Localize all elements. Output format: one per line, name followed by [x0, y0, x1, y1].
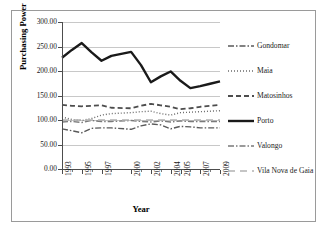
y-tick-label: 50.00 [40, 141, 57, 148]
legend-label: Vila Nova de Gaia [257, 166, 313, 176]
x-tick-label: 1997 [105, 161, 112, 176]
legend-swatch-icon [228, 116, 254, 126]
x-tick-mark [151, 170, 152, 174]
legend-item-maia[interactable]: Maia [228, 66, 318, 76]
y-tick-mark [58, 47, 62, 48]
legend-item-porto[interactable]: Porto [228, 116, 318, 126]
x-tick-mark [62, 170, 63, 174]
x-tick-mark [220, 170, 221, 174]
y-tick-mark [58, 120, 62, 121]
x-tick-label: 1995 [85, 161, 92, 176]
y-axis-line [62, 22, 63, 170]
legend-label: Matosinhos [257, 91, 292, 101]
series-line-valongo [62, 120, 220, 122]
x-tick-label: 2000 [134, 161, 141, 176]
plot-area [62, 22, 220, 169]
series-layer [62, 22, 220, 169]
x-tick-label: 2007 [203, 161, 210, 176]
y-tick-label: 200.00 [37, 67, 57, 74]
x-tick-mark [171, 170, 172, 174]
legend-swatch-icon [228, 91, 254, 101]
legend-item-vila-nova-de-gaia[interactable]: Vila Nova de Gaia [228, 166, 318, 176]
y-tick-mark [58, 145, 62, 146]
y-tick-label: 300.00 [37, 18, 57, 25]
x-tick-label: 2002 [154, 161, 161, 176]
series-line-gondomar [62, 124, 220, 133]
legend-label: Porto [257, 116, 273, 126]
series-line-matosinhos [62, 104, 220, 109]
legend-item-matosinhos[interactable]: Matosinhos [228, 91, 318, 101]
y-tick-mark [58, 22, 62, 23]
legend-swatch-icon [228, 41, 254, 51]
series-line-porto [62, 43, 220, 88]
x-tick-mark [82, 170, 83, 174]
x-tick-mark [102, 170, 103, 174]
x-tick-label: 2004 [174, 161, 181, 176]
legend-item-gondomar[interactable]: Gondomar [228, 41, 318, 51]
legend-label: Valongo [257, 141, 282, 151]
legend-swatch-icon [228, 141, 254, 151]
y-tick-label: 150.00 [37, 92, 57, 99]
y-tick-mark [58, 71, 62, 72]
x-tick-label: 2005 [184, 161, 191, 176]
chart-figure: 0.0050.00100.00150.00200.00250.00300.00 … [0, 0, 335, 234]
y-tick-label: 0.00 [44, 165, 57, 172]
x-tick-mark [131, 170, 132, 174]
x-tick-label: 1993 [65, 161, 72, 176]
legend-label: Gondomar [257, 41, 289, 51]
legend-swatch-icon [228, 66, 254, 76]
y-axis-title: Purchasing Power [19, 58, 28, 70]
x-axis-title: Year [62, 205, 220, 214]
y-tick-label: 250.00 [37, 43, 57, 50]
x-tick-mark [200, 170, 201, 174]
legend-swatch-icon [228, 166, 254, 176]
y-tick-label: 100.00 [37, 116, 57, 123]
y-tick-mark [58, 96, 62, 97]
series-line-maia [62, 111, 220, 121]
legend-item-valongo[interactable]: Valongo [228, 141, 318, 151]
legend-label: Maia [257, 66, 273, 76]
